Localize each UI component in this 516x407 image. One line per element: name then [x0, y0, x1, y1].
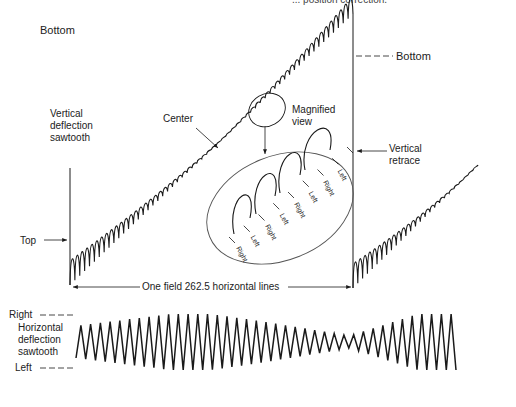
svg-text:Right: Right	[234, 245, 249, 263]
label-left: Left	[15, 362, 32, 374]
label-bottom-left: Bottom	[40, 24, 75, 36]
svg-text:Left: Left	[308, 190, 320, 204]
deflection-diagram: ... position correction.	[0, 0, 516, 407]
svg-text:Right: Right	[292, 201, 307, 219]
label-vertical-deflection-sawtooth: Vertical deflection sawtooth	[50, 108, 93, 144]
svg-text:Left: Left	[279, 212, 291, 226]
center-arrow	[196, 128, 218, 148]
label-field-span: One field 262.5 horizontal lines	[142, 281, 279, 293]
svg-text:Right: Right	[263, 223, 278, 241]
label-vertical-retrace: Vertical retrace	[389, 143, 422, 167]
magnify-circle	[243, 87, 292, 134]
magnified-waveform	[229, 128, 353, 243]
label-magnified-view: Magnified view	[292, 104, 335, 128]
horizontal-sawtooth	[76, 314, 456, 370]
magnified-labels: RightLeftRightLeftRightLeftRightLeft	[234, 168, 348, 263]
label-top: Top	[20, 235, 36, 247]
svg-text:Left: Left	[250, 234, 262, 248]
svg-text:Right: Right	[321, 179, 336, 197]
label-horizontal-deflection-sawtooth: Horizontal deflection sawtooth	[18, 322, 63, 358]
label-center: Center	[163, 113, 193, 125]
magnified-view-ellipse	[190, 131, 370, 284]
svg-text:Left: Left	[337, 168, 349, 182]
waveform-canvas: RightLeftRightLeftRightLeftRightLeft	[0, 0, 516, 407]
vertical-sawtooth-field-2	[353, 165, 478, 288]
label-right: Right	[9, 309, 32, 321]
label-bottom-right: Bottom	[396, 50, 431, 62]
